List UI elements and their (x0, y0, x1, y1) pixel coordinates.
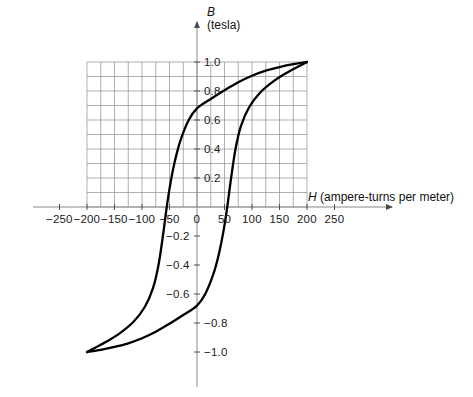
x-tick-label: −200 (74, 213, 101, 225)
y-tick-label: 0.2 (204, 172, 221, 184)
y-tick-label: 1.0 (204, 56, 221, 68)
x-tick-label: −250 (46, 213, 73, 225)
x-tick-label: −150 (101, 213, 128, 225)
y-tick-label: 0.4 (204, 143, 221, 155)
y-tick-label: 0.8 (204, 85, 221, 97)
y-tick-label: −0.6 (166, 288, 190, 300)
y-tick-label: −0.4 (166, 259, 190, 271)
x-tick-label: 250 (325, 213, 345, 225)
y-axis-caption: B (tesla) (207, 6, 240, 31)
x-tick-label: 100 (242, 213, 262, 225)
x-tick-label: −50 (160, 213, 180, 225)
x-tick-label: 150 (270, 213, 290, 225)
y-tick-label: 0.6 (204, 114, 221, 126)
hysteresis-loop-figure: B (tesla) H (ampere-turns per meter) −25… (0, 0, 473, 397)
y-tick-label: −1.0 (204, 346, 228, 358)
y-tick-label: −0.8 (204, 317, 228, 329)
x-tick-label: 0 (194, 213, 201, 225)
y-axis-unit: (tesla) (207, 18, 240, 32)
x-axis-symbol: H (308, 190, 317, 204)
x-axis-unit: (ampere-turns per meter) (320, 190, 454, 204)
x-axis-caption: H (ampere-turns per meter) (308, 190, 454, 204)
x-tick-label: 50 (218, 213, 231, 225)
y-tick-label: −0.2 (166, 230, 190, 242)
x-tick-label: −100 (129, 213, 156, 225)
x-tick-label: 200 (297, 213, 317, 225)
